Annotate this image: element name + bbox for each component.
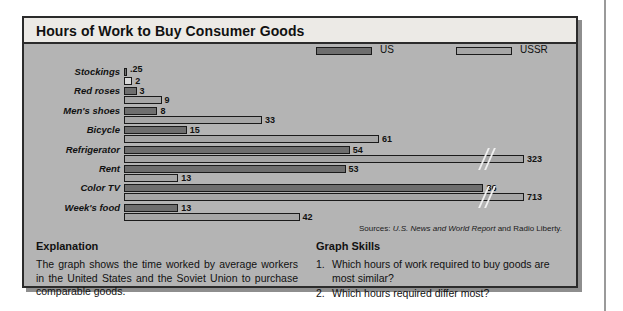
bar-value-ussr-red-roses: 9 <box>165 96 170 104</box>
bar-us-bicycle <box>124 126 187 134</box>
legend-swatch-us <box>316 47 372 55</box>
question-number: 1. <box>316 258 325 272</box>
bar-value-ussr-color-tv: 713 <box>527 193 542 201</box>
category-label-stockings: Stockings <box>24 66 120 77</box>
page-title: Hours of Work to Buy Consumer Goods <box>36 23 304 39</box>
bar-value-ussr-rent: 13 <box>181 174 191 182</box>
category-label-rent: Rent <box>24 163 120 174</box>
explanation-body: The graph shows the time worked by avera… <box>36 258 298 299</box>
bar-value-us-color-tv: 86 <box>486 184 496 192</box>
sources-publication: U.S. News and World Report <box>393 224 496 233</box>
bar-value-ussr-week-s-food: 42 <box>303 213 313 221</box>
sources-suffix: and Radio Liberty. <box>498 224 562 233</box>
legend-swatch-ussr <box>456 47 512 55</box>
chart-legend: USUSSR <box>24 44 576 64</box>
bar-us-refrigerator <box>124 146 350 154</box>
title-band: Hours of Work to Buy Consumer Goods <box>24 18 576 44</box>
explanation-column: Explanation The graph shows the time wor… <box>36 240 298 299</box>
legend-label-ussr: USSR <box>520 44 548 55</box>
explanation-heading: Explanation <box>36 240 298 252</box>
bar-value-ussr-stockings: 2 <box>135 77 140 85</box>
sources-prefix: Sources: <box>359 224 391 233</box>
bar-ussr-week-s-food <box>124 213 300 221</box>
bar-us-red-roses <box>124 87 137 95</box>
bar-value-us-bicycle: 15 <box>190 126 200 134</box>
legend-label-us: US <box>380 44 394 55</box>
bar-value-us-refrigerator: 54 <box>353 146 363 154</box>
bar-us-men-s-shoes <box>124 107 157 115</box>
bar-us-stockings <box>124 68 127 76</box>
bar-value-us-men-s-shoes: 8 <box>160 107 165 115</box>
bar-ussr-men-s-shoes <box>124 116 262 124</box>
bar-us-week-s-food <box>124 204 178 212</box>
question-text: Which hours required differ most? <box>332 287 489 299</box>
graph-skills-heading: Graph Skills <box>316 240 574 252</box>
bar-value-us-red-roses: 3 <box>140 87 145 95</box>
bar-value-us-rent: 53 <box>349 165 359 173</box>
bar-value-ussr-bicycle: 61 <box>382 135 392 143</box>
category-label-week-s-food: Week's food <box>24 202 120 213</box>
bar-ussr-refrigerator <box>124 155 524 163</box>
bar-value-us-stockings: .25 <box>130 65 143 73</box>
figure-box: Hours of Work to Buy Consumer Goods USUS… <box>22 16 578 288</box>
bar-us-color-tv <box>124 184 483 192</box>
graph-skills-question-1: 1.Which hours of work required to buy go… <box>316 258 574 285</box>
question-text: Which hours of work required to buy good… <box>332 258 550 284</box>
chart-sources: Sources: U.S. News and World Report and … <box>359 224 562 233</box>
graph-skills-questions: 1.Which hours of work required to buy go… <box>316 258 574 301</box>
chart-plot-area: USUSSR Stockings.252Red roses39Men's sho… <box>24 44 576 226</box>
bar-value-us-week-s-food: 13 <box>181 204 191 212</box>
bar-value-ussr-refrigerator: 323 <box>527 155 542 163</box>
bar-ussr-bicycle <box>124 135 379 143</box>
bar-ussr-rent <box>124 174 178 182</box>
bar-ussr-red-roses <box>124 96 162 104</box>
figure-root: Hours of Work to Buy Consumer Goods USUS… <box>0 0 623 311</box>
bar-value-ussr-men-s-shoes: 33 <box>265 116 275 124</box>
category-label-red-roses: Red roses <box>24 85 120 96</box>
page-gutter-rule <box>604 0 606 311</box>
bar-ussr-color-tv <box>124 193 524 201</box>
category-label-bicycle: Bicycle <box>24 124 120 135</box>
category-label-color-tv: Color TV <box>24 182 120 193</box>
graph-skills-question-2: 2.Which hours required differ most? <box>316 287 574 301</box>
category-label-refrigerator: Refrigerator <box>24 144 120 155</box>
graph-skills-column: Graph Skills 1.Which hours of work requi… <box>316 240 574 303</box>
question-number: 2. <box>316 287 325 301</box>
bar-us-rent <box>124 165 346 173</box>
category-label-men-s-shoes: Men's shoes <box>24 105 120 116</box>
bar-ussr-stockings <box>124 77 132 85</box>
